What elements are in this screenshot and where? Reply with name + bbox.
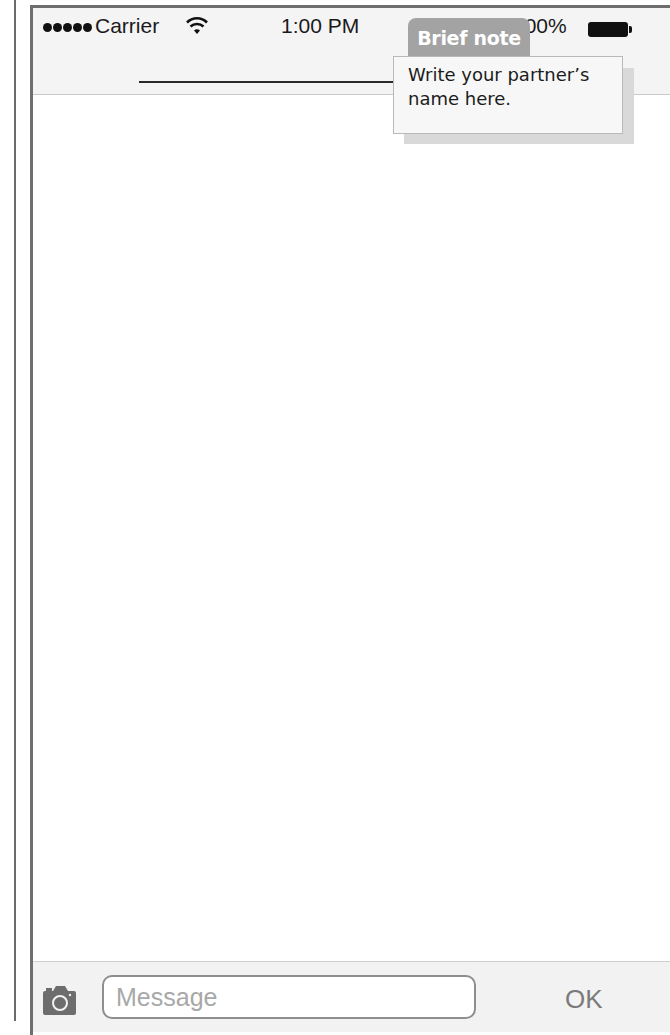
camera-icon[interactable] bbox=[43, 984, 76, 1017]
wifi-icon bbox=[185, 16, 209, 36]
signal-strength-icon bbox=[43, 23, 92, 32]
phone-screen: Carrier 1:00 PM 100% OK bbox=[30, 5, 670, 1035]
status-bar: Carrier 1:00 PM 100% bbox=[33, 8, 670, 48]
ok-button[interactable]: OK bbox=[565, 984, 603, 1015]
message-input-toolbar: OK bbox=[33, 961, 670, 1032]
status-time: 1:00 PM bbox=[281, 14, 359, 38]
message-thread-area bbox=[33, 95, 670, 961]
brief-note-tab: Brief note bbox=[408, 18, 530, 58]
partner-name-blank-line bbox=[139, 81, 397, 83]
page-margin-rule bbox=[14, 0, 16, 1021]
battery-full-icon bbox=[588, 22, 628, 37]
brief-note-callout: Write your partner’s name here. bbox=[393, 56, 623, 134]
carrier-label: Carrier bbox=[95, 14, 159, 38]
message-input[interactable] bbox=[102, 975, 476, 1019]
